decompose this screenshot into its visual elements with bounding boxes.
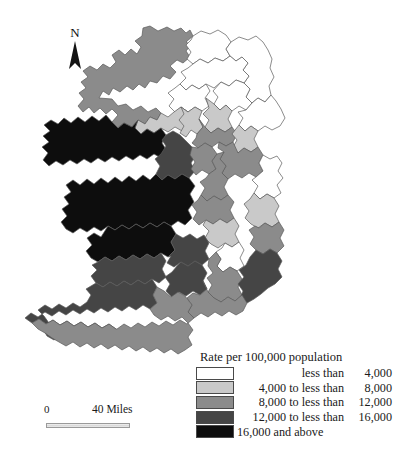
legend-title: Rate per 100,000 population	[200, 350, 392, 365]
legend-row: 8,000 to less than 12,000	[196, 395, 392, 410]
legend-class-text: 12,000 to less than	[253, 410, 344, 424]
north-arrow-icon	[66, 40, 84, 70]
legend-rows: less than 4,000 4,000 to less than 8,000…	[196, 366, 392, 439]
county-longford	[190, 143, 217, 175]
legend-label-class-3: 8,000 to less than 12,000	[234, 395, 392, 409]
scale-bar-rule	[46, 423, 130, 428]
legend-row: 12,000 to less than 16,000	[196, 410, 392, 425]
legend-class-text: 8,000 to less than	[259, 395, 344, 409]
legend-class-text: 4,000 to less than	[259, 381, 344, 395]
county-offaly	[192, 195, 234, 225]
legend-class-text: less than	[302, 366, 344, 380]
legend-row: less than 4,000	[196, 366, 392, 381]
scale-bar-max-label: 40 Miles	[92, 402, 133, 416]
legend-swatch-class-3	[196, 396, 234, 409]
legend-class-value: 4,000	[350, 366, 392, 380]
scale-bar-zero-label: 0	[44, 402, 50, 416]
legend-class-text: 16,000 and above	[237, 425, 323, 439]
legend-label-class-2: 4,000 to less than 8,000	[234, 381, 392, 395]
legend: Rate per 100,000 population less than 4,…	[196, 350, 392, 454]
legend-class-value: 16,000	[350, 410, 392, 424]
legend-label-class-4: 12,000 to less than 16,000	[234, 410, 392, 424]
north-arrow-label: N	[62, 26, 88, 39]
legend-swatch-class-5	[196, 425, 234, 438]
north-arrow: N	[62, 26, 88, 72]
legend-label-class-1: less than 4,000	[234, 366, 392, 380]
legend-label-class-5: 16,000 and above	[234, 425, 392, 439]
legend-swatch-class-4	[196, 411, 234, 424]
legend-class-value: 8,000	[350, 381, 392, 395]
legend-row: 16,000 and above	[196, 424, 392, 439]
legend-swatch-class-2	[196, 381, 234, 394]
county-fermanagh	[168, 84, 210, 112]
county-galway	[61, 174, 195, 233]
scale-bar: 0 40 Miles	[40, 402, 175, 434]
legend-swatch-class-1	[196, 367, 234, 380]
county-kildare	[244, 193, 279, 228]
choropleth-map-figure: N 0 40 Miles Rate per 100,000 population…	[0, 0, 393, 460]
county-wexford	[238, 249, 282, 303]
county-tipperary	[165, 234, 209, 297]
legend-row: 4,000 to less than 8,000	[196, 381, 392, 396]
legend-class-value: 12,000	[350, 395, 392, 409]
county-wicklow	[249, 222, 284, 254]
